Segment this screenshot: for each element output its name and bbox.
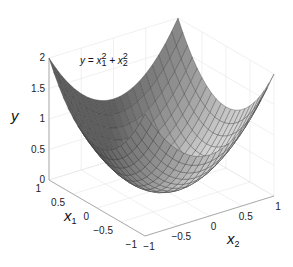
x1-tick: 0 [83, 211, 89, 222]
y-axis-label: y [10, 107, 20, 124]
surface-plot: 00.511.5210.50−0.5−1−1−0.500.51 y = x12 … [0, 0, 293, 267]
y-tick: 1 [39, 113, 45, 124]
y-tick: 0.5 [31, 144, 45, 155]
x2-tick: 1 [275, 201, 281, 212]
x1-tick: −0.5 [93, 225, 113, 236]
x2-tick: −0.5 [171, 231, 191, 242]
x1-axis-label: x1 [63, 207, 77, 226]
x1-tick: 1 [35, 183, 41, 194]
x1-tick: −1 [126, 239, 138, 250]
x2-axis-label: x2 [226, 230, 240, 249]
x2-tick: 0 [211, 221, 217, 232]
equation-annotation: y = x12 + x22 [79, 51, 128, 68]
y-tick: 1.5 [31, 83, 45, 94]
surface-mesh [49, 18, 274, 193]
x2-tick: −1 [143, 241, 155, 252]
y-tick: 2 [39, 52, 45, 63]
x2-tick: 0.5 [239, 211, 253, 222]
